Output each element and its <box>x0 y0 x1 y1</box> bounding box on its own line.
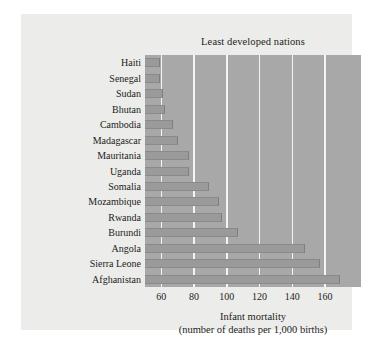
bar-haiti <box>145 58 160 67</box>
bar-uganda <box>145 167 189 176</box>
bar-angola <box>145 244 305 253</box>
gridline-160 <box>324 55 325 287</box>
bar-burundi <box>145 228 238 237</box>
figure-card: Least developed nations HaitiSenegalSuda… <box>21 14 352 330</box>
category-label-mozambique: Mozambique <box>88 196 141 207</box>
bar-bhutan <box>145 105 165 114</box>
category-label-bhutan: Bhutan <box>112 104 141 115</box>
category-label-burundi: Burundi <box>108 227 141 238</box>
bar-cambodia <box>145 120 173 129</box>
xtick-label-100: 100 <box>219 291 234 302</box>
category-axis-labels: HaitiSenegalSudanBhutanCambodiaMadagasca… <box>45 55 141 287</box>
chart-title: Least developed nations <box>145 36 361 47</box>
category-label-afghanistan: Afghanistan <box>92 274 141 285</box>
category-label-uganda: Uganda <box>110 166 141 177</box>
bar-sudan <box>145 89 163 98</box>
bar-mozambique <box>145 197 219 206</box>
plot-area <box>145 55 361 287</box>
value-axis-tick-labels: 6080100120140160 <box>145 291 361 305</box>
category-label-haiti: Haiti <box>121 57 141 68</box>
value-axis-caption-line2: (number of deaths per 1,000 births) <box>131 323 373 336</box>
bar-afghanistan <box>145 275 340 284</box>
bar-sierra-leone <box>145 259 320 268</box>
category-label-mauritania: Mauritania <box>97 150 141 161</box>
category-label-angola: Angola <box>112 243 141 254</box>
category-label-somalia: Somalia <box>108 181 141 192</box>
category-label-sierra-leone: Sierra Leone <box>90 258 141 269</box>
bar-senegal <box>145 74 160 83</box>
xtick-label-140: 140 <box>285 291 300 302</box>
category-label-rwanda: Rwanda <box>108 212 141 223</box>
value-axis-caption: Infant mortality (number of deaths per 1… <box>131 310 373 336</box>
bar-somalia <box>145 182 209 191</box>
category-label-madagascar: Madagascar <box>93 135 141 146</box>
bar-rwanda <box>145 213 222 222</box>
xtick-label-60: 60 <box>156 291 166 302</box>
category-label-senegal: Senegal <box>109 73 141 84</box>
category-label-sudan: Sudan <box>116 88 141 99</box>
value-axis-caption-line1: Infant mortality <box>131 310 373 323</box>
category-label-cambodia: Cambodia <box>100 119 141 130</box>
xtick-label-80: 80 <box>189 291 199 302</box>
xtick-label-120: 120 <box>252 291 267 302</box>
xtick-label-160: 160 <box>318 291 333 302</box>
bar-mauritania <box>145 151 189 160</box>
bar-madagascar <box>145 136 178 145</box>
